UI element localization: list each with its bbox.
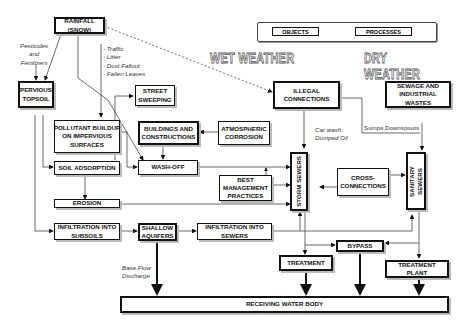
sanitary-sewers-label: SANITARY SEWERS [408, 166, 424, 197]
annotation-pesticides: Pesticides and Fertilizers [20, 42, 48, 67]
node-atmospheric-corrosion: ATMOSPHERIC CORROSION [218, 121, 270, 145]
node-bypass: BYPASS [336, 240, 384, 252]
annotation-sumps: Sumps,Downspouts [364, 124, 419, 132]
node-shallow-aquifers: SHALLOW AQUIFERS [138, 223, 177, 241]
node-sanitary-sewers: SANITARY SEWERS [406, 152, 426, 210]
annotation-traffic-list: - Traffic - Litter - Dust Fallout - Fall… [103, 45, 145, 78]
node-soil-adsorption: SOIL ADSORPTION [54, 161, 120, 175]
node-sewage-industrial: SEWAGE AND INDUSTRIAL WASTES [385, 81, 451, 108]
annotation-car-wash: Car wash, Dumped Oil [315, 126, 348, 143]
node-cross-connections: CROSS- CONNECTIONS [337, 168, 389, 196]
node-pervious-topsoil: PERVIOUS TOPSOIL [18, 81, 54, 108]
node-street-sweeping: STREET SWEEPING [135, 85, 175, 106]
wet-weather-title: WET WEATHER [210, 50, 294, 66]
node-storm-sewers: STORM SEWERS [290, 152, 308, 211]
node-treatment-plant: TREATMENT PLANT [385, 260, 449, 278]
node-pollutant-buildup: POLLUTANT BUILDUP ON IMPERVIOUS SURFACES [54, 120, 120, 153]
node-infiltration-subsoils: INFILTRATION INTO SUBSOILS [54, 223, 120, 240]
node-best-management-practices: BEST MANAGEMENT PRACTICES [219, 175, 272, 201]
node-rainfall: RAINFALL (SNOW) [54, 17, 105, 34]
legend-processes: PROCESSES [355, 27, 412, 36]
dry-weather-title: DRY WEATHER [364, 50, 442, 82]
node-illegal-connections: ILLEGAL CONNECTIONS [273, 81, 340, 109]
legend: OBJECTS PROCESSES [257, 22, 437, 42]
annotation-base-flow: Base Flow Discharge [122, 264, 151, 281]
node-buildings: BUILDINGS AND CONSTRUCTIONS [138, 121, 199, 145]
node-erosion: EROSION [54, 199, 120, 208]
node-infiltration-sewers: INFILTRATION INTO SEWERS [197, 223, 272, 240]
node-receiving-water-body: RECEIVING WATER BODY [120, 296, 449, 313]
node-treatment: TREATMENT [279, 255, 333, 271]
node-wash-off: WASH-OFF [138, 160, 198, 175]
storm-sewers-label: STORM SEWERS [295, 156, 303, 207]
legend-objects: OBJECTS [272, 27, 319, 36]
